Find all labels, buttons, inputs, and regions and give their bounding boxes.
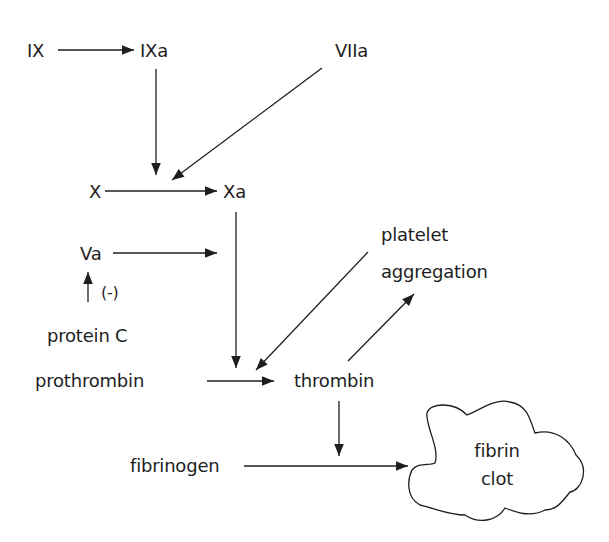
arrow-platelet-to-thrombin xyxy=(256,252,368,370)
node-fibrinogen: fibrinogen xyxy=(130,456,220,476)
node-ix: IX xyxy=(27,41,44,61)
node-x: X xyxy=(89,182,101,202)
inhibition-label: (-) xyxy=(101,283,119,303)
node-thrombin: thrombin xyxy=(294,371,374,391)
node-fibrin: fibrin xyxy=(472,441,522,461)
node-prothrombin: prothrombin xyxy=(35,371,144,391)
node-xa: Xa xyxy=(223,182,246,202)
node-platelet: platelet xyxy=(381,225,448,245)
node-viia: VIIa xyxy=(335,41,368,61)
arrow-thrombin-to-aggregation xyxy=(348,294,414,361)
node-aggregation: aggregation xyxy=(381,262,488,282)
arrow-viia-diagonal xyxy=(172,68,322,180)
node-protein-c: protein C xyxy=(47,326,127,346)
node-clot: clot xyxy=(472,469,522,489)
coagulation-diagram: IX IXa VIIa X Xa Va (-) protein C prothr… xyxy=(0,0,609,542)
node-ixa: IXa xyxy=(140,41,168,61)
node-va: Va xyxy=(80,244,102,264)
